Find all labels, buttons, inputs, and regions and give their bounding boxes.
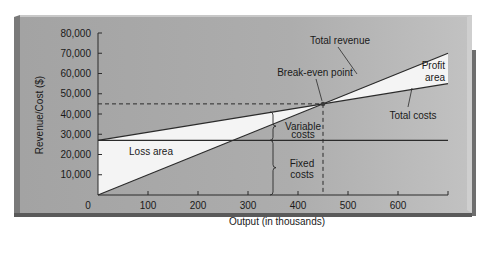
y-tick-label: 60,000 xyxy=(60,68,91,79)
annotation-variable-line2: costs xyxy=(291,129,314,140)
x-axis-title: Output (in thousands) xyxy=(229,216,325,227)
x-tick-label: 0 xyxy=(85,200,91,211)
y-tick-label: 50,000 xyxy=(60,88,91,99)
y-tick-label: 70,000 xyxy=(60,48,91,59)
y-tick-label: 40,000 xyxy=(60,109,91,120)
break-even-chart: 10,00020,00030,00040,00050,00060,00070,0… xyxy=(0,0,485,256)
panel-bevel-top xyxy=(20,15,472,17)
x-tick-label: 600 xyxy=(390,200,407,211)
annotation-fixed-line2: costs xyxy=(290,169,313,180)
annotation-loss-area: Loss area xyxy=(129,146,173,157)
break-even-point-marker xyxy=(321,102,325,106)
annotation-profit-line2: area xyxy=(425,72,445,83)
x-tick-label: 400 xyxy=(290,200,307,211)
annotation-total-costs: Total costs xyxy=(389,110,436,121)
annotation-profit-line1: Profit xyxy=(422,60,446,71)
y-axis-title: Revenue/Cost ($) xyxy=(34,76,45,154)
x-tick-label: 200 xyxy=(190,200,207,211)
y-tick-label: 80,000 xyxy=(60,28,91,39)
annotation-total-revenue: Total revenue xyxy=(310,35,370,46)
panel-bevel-right xyxy=(467,15,472,213)
x-tick-label: 500 xyxy=(340,200,357,211)
x-tick-label: 100 xyxy=(140,200,157,211)
annotation-fixed-line1: Fixed xyxy=(290,158,314,169)
y-tick-label: 30,000 xyxy=(60,129,91,140)
annotation-break-even-point: Break-even point xyxy=(277,67,353,78)
x-tick-label: 300 xyxy=(240,200,257,211)
y-tick-label: 10,000 xyxy=(60,169,91,180)
y-tick-label: 20,000 xyxy=(60,149,91,160)
